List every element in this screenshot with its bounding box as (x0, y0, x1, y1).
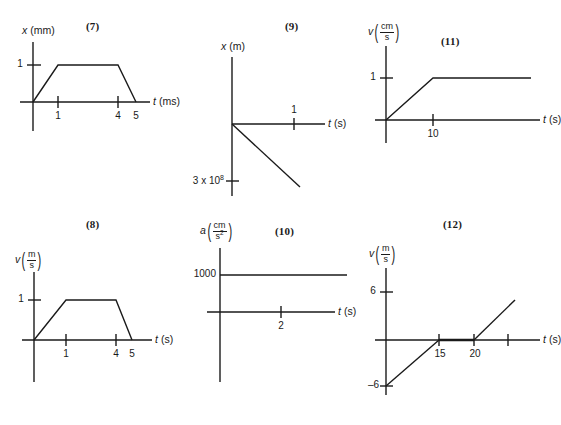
panel-11-x-variable: t (543, 113, 546, 125)
panel-9-x-variable: t (328, 117, 331, 129)
panel-12-xtick-label-20: 20 (466, 348, 484, 359)
panel-11-x-axis-label: t(s) (543, 113, 561, 125)
panel-9-ytick-label-3e8: 3 x 108 (180, 174, 224, 186)
panel-10-plot (185, 210, 375, 390)
panel-8-ytick-label-1: 1 (15, 293, 27, 304)
panel-7-ytick-label-1: 1 (14, 58, 26, 69)
graph-panel-9: (9) x(m) 1 3 x 108 t(s) (180, 0, 360, 210)
panel-10-ytick-label-1000: 1000 (185, 268, 216, 279)
panel-12-xtick-label-15: 15 (431, 348, 449, 359)
panel-8-xtick-label-5: 5 (126, 348, 138, 359)
panel-12-plot (355, 210, 559, 400)
panel-8-xtick-label-1: 1 (60, 348, 72, 359)
panel-11-plot (355, 0, 559, 150)
panel-7-xtick-label-1: 1 (52, 110, 64, 121)
graph-panel-10: (10) a(cms2) 1000 2 t(s) (185, 210, 375, 390)
panel-8-x-unit: (s) (161, 333, 173, 345)
panel-8-plot (0, 210, 200, 390)
graph-panel-12: (12) v(ms) 6 –6 15 20 t(s) (355, 210, 559, 400)
panel-10-x-variable: t (338, 305, 341, 317)
panel-7-x-axis-label: t(ms) (153, 95, 180, 107)
panel-8-data-curve (34, 300, 132, 340)
panel-12-data-segment-rise1 (386, 340, 439, 386)
panel-11-ytick-label-1: 1 (367, 71, 379, 82)
panel-12-ytick-label-neg6: –6 (359, 379, 379, 390)
panel-12-x-variable: t (543, 333, 546, 345)
panel-9-data-line (232, 124, 300, 187)
panel-7-xtick-label-4: 4 (112, 110, 124, 121)
panel-11-xtick-label-10: 10 (424, 128, 442, 139)
panel-12-x-axis-label: t(s) (543, 333, 561, 345)
panel-7-plot (0, 0, 200, 140)
panel-7-x-variable: t (153, 95, 156, 107)
panel-7-data-curve (33, 65, 136, 102)
panel-9-x-unit: (s) (334, 117, 346, 129)
panel-9-ytick-exponent: 8 (220, 174, 224, 181)
panel-8-x-axis-label: t(s) (155, 333, 173, 345)
panel-8-xtick-label-4: 4 (110, 348, 122, 359)
panel-7-xtick-label-5: 5 (130, 110, 142, 121)
panel-8-x-variable: t (155, 333, 158, 345)
panel-12-ytick-label-6: 6 (367, 285, 379, 296)
graph-panel-8: (8) v(ms) 1 1 4 5 t(s) (0, 210, 200, 390)
panel-11-data-curve (386, 78, 531, 120)
panel-12-data-segment-rise2 (474, 300, 515, 340)
graph-panel-11: (11) v(cms) 1 10 t(s) (355, 0, 559, 150)
graph-panel-7: (7) x(mm) 1 1 4 5 t(ms) (0, 0, 200, 140)
panel-9-xtick-label-1: 1 (288, 104, 300, 115)
panel-9-ytick-mantissa: 3 x 10 (193, 175, 220, 186)
panel-7-x-unit: (ms) (159, 95, 180, 107)
panel-10-xtick-label-2: 2 (275, 320, 287, 331)
panel-10-x-axis-label: t(s) (338, 305, 356, 317)
panel-11-x-unit: (s) (549, 113, 561, 125)
panel-9-x-axis-label: t(s) (328, 117, 346, 129)
panel-12-x-unit: (s) (549, 333, 561, 345)
